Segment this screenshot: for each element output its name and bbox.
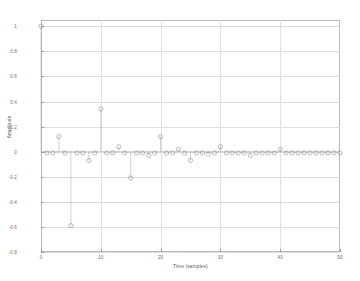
x-tick-label: 30 [205,255,235,260]
plot-area [41,20,340,252]
figure-canvas: 10.80.60.40.20-0.2-0.4-0.6-0.8 010203040… [0,0,360,281]
y-axis-label: Amplitude [7,97,13,157]
x-tick-mark [340,249,341,252]
gridline-horizontal [41,252,340,253]
x-tick-label: 40 [265,255,295,260]
y-tick-label: 0.6 [0,74,17,79]
y-tick-label: -0.6 [0,224,17,229]
x-tick-label: 50 [325,255,355,260]
x-axis-label: Time (samples) [41,264,340,270]
y-tick-label: -0.4 [0,199,17,204]
y-tick-label: 0.8 [0,49,17,54]
x-tick-label: 0 [26,255,56,260]
y-tick-label: -0.2 [0,174,17,179]
y-tick-mark [41,252,44,253]
x-tick-label: 20 [146,255,176,260]
x-tick-label: 10 [86,255,116,260]
y-tick-label: 1 [0,24,17,29]
y-tick-label: -0.8 [0,250,17,255]
stem-series [41,20,340,252]
